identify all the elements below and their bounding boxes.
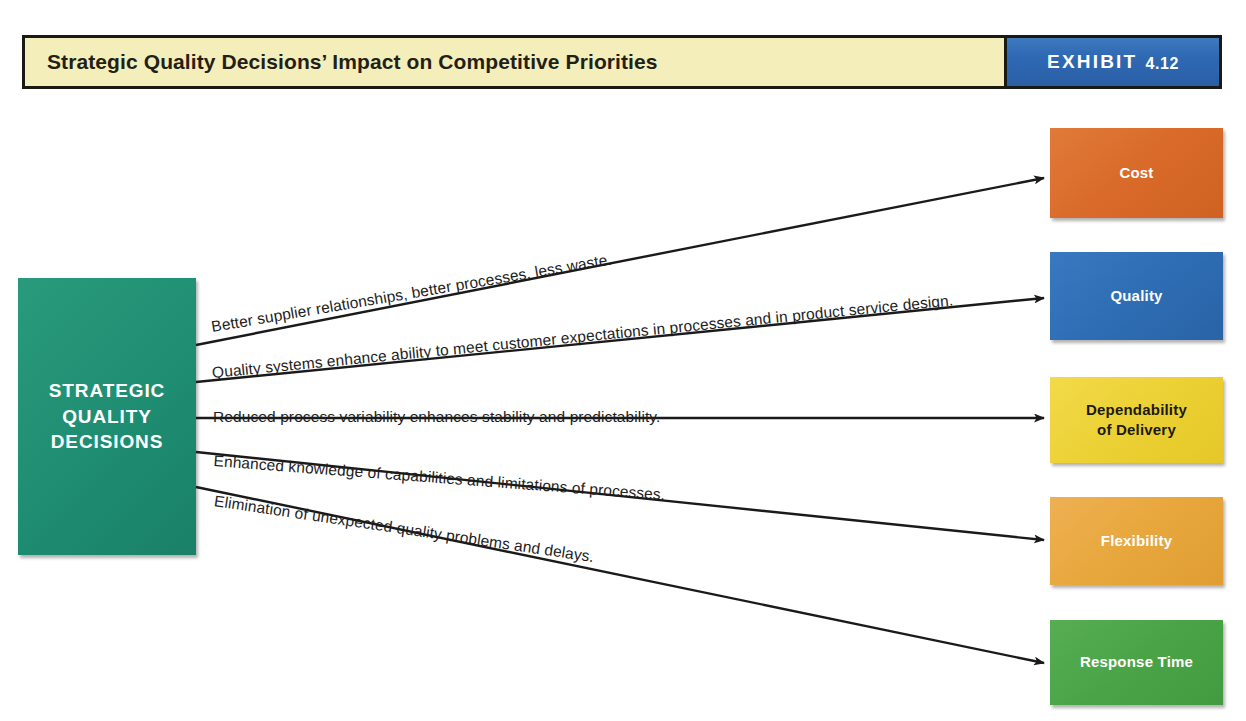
arrow-caption-response-time: Elimination of unexpected quality proble…: [213, 492, 595, 566]
exhibit-number: 4.12: [1145, 55, 1179, 73]
priority-box-response-time: Response Time: [1050, 620, 1223, 705]
priority-label-quality: Quality: [1110, 286, 1162, 306]
priority-box-quality: Quality: [1050, 252, 1223, 340]
priority-label-dependability-of-delivery: Dependability of Delivery: [1086, 400, 1187, 441]
exhibit-number-panel: EXHIBIT 4.12: [1004, 38, 1219, 86]
priority-label-flexibility: Flexibility: [1101, 531, 1172, 551]
priority-box-flexibility: Flexibility: [1050, 497, 1223, 585]
priority-box-dependability-of-delivery: Dependability of Delivery: [1050, 377, 1223, 463]
priority-box-cost: Cost: [1050, 128, 1223, 218]
page-title: Strategic Quality Decisions’ Impact on C…: [47, 50, 658, 74]
priority-label-cost: Cost: [1119, 163, 1153, 183]
arrow-caption-cost: Better supplier relationships, better pr…: [210, 251, 613, 336]
arrow-caption-dependability-of-delivery: Reduced process variability enhances sta…: [213, 408, 660, 426]
exhibit-label: EXHIBIT: [1047, 51, 1137, 73]
priority-label-response-time: Response Time: [1080, 652, 1193, 672]
exhibit-title-panel: Strategic Quality Decisions’ Impact on C…: [25, 38, 1004, 86]
exhibit-header-bar: Strategic Quality Decisions’ Impact on C…: [22, 35, 1222, 89]
arrow-caption-flexibility: Enhanced knowledge of capabilities and l…: [213, 452, 666, 504]
source-box-label: STRATEGIC QUALITY DECISIONS: [49, 378, 165, 455]
arrow-to-cost: [196, 178, 1044, 345]
strategic-quality-decisions-box: STRATEGIC QUALITY DECISIONS: [18, 278, 196, 555]
